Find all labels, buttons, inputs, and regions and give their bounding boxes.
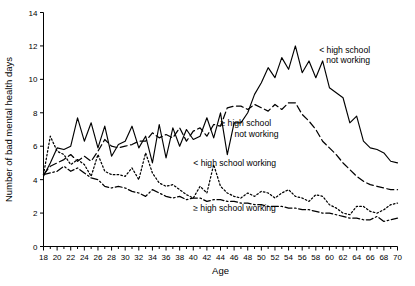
x-axis-tick-label: 60	[325, 253, 334, 262]
x-axis-tick-label: 54	[284, 253, 293, 262]
x-axis-tick-label: 26	[94, 253, 103, 262]
x-axis-tick-label: 64	[352, 253, 361, 262]
y-axis-tick-label: 6	[33, 142, 38, 151]
mental-health-days-by-age-line-chart: 02468101214 1820222426283032343638404244…	[0, 0, 415, 286]
x-axis-tick-label: 24	[80, 253, 89, 262]
x-axis-tick-label: 70	[393, 253, 402, 262]
x-axis-tick-label: 38	[175, 253, 184, 262]
x-axis-tick-label: 34	[148, 253, 157, 262]
x-axis-tick-label: 30	[121, 253, 130, 262]
x-axis-tick-label: 62	[339, 253, 348, 262]
x-axis-tick-label: 32	[134, 253, 143, 262]
y-axis-tick-label: 10	[29, 75, 38, 84]
x-axis-tick-label: 46	[230, 253, 239, 262]
x-axis-tick-label: 44	[216, 253, 225, 262]
x-axis-tick-label: 48	[243, 253, 252, 262]
x-axis-tick-label: 42	[202, 253, 211, 262]
x-axis-title: Age	[212, 265, 229, 276]
x-axis-tick-label: 22	[66, 253, 75, 262]
series-label-2: < high school working	[193, 158, 276, 168]
y-axis-tick-label: 0	[33, 243, 38, 252]
y-axis-tick-label: 12	[29, 42, 38, 51]
x-axis-tick-label: 66	[366, 253, 375, 262]
y-axis-tick-label: 8	[33, 109, 38, 118]
series-label-3: ≥ high school working	[193, 203, 276, 213]
x-axis-tick-label: 36	[162, 253, 171, 262]
x-axis-tick-label: 28	[107, 253, 116, 262]
x-axis-tick-label: 40	[189, 253, 198, 262]
series-label-0: < high schoolnot working	[319, 45, 370, 66]
y-axis-title: Number of bad mental health days	[3, 57, 14, 202]
x-axis-tick-label: 20	[53, 253, 62, 262]
y-axis-tick-label: 4	[33, 176, 38, 185]
chart-container: 02468101214 1820222426283032343638404244…	[0, 0, 415, 286]
x-axis-tick-label: 50	[257, 253, 266, 262]
x-axis-tick-label: 68	[379, 253, 388, 262]
y-axis-tick-label: 2	[33, 209, 38, 218]
x-axis-tick-label: 58	[311, 253, 320, 262]
chart-background	[0, 0, 415, 286]
x-axis-tick-label: 18	[39, 253, 48, 262]
x-axis-tick-label: 56	[298, 253, 307, 262]
x-axis-tick-label: 52	[271, 253, 280, 262]
y-axis-tick-label: 14	[29, 9, 38, 18]
